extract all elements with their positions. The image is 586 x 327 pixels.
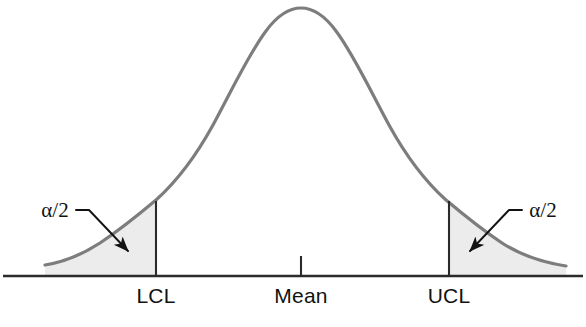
- normal-distribution-figure: α/2 α/2 LCL Mean UCL: [0, 0, 586, 327]
- alpha-left-label: α/2: [41, 198, 68, 222]
- alpha-right-label: α/2: [529, 198, 556, 222]
- ucl-axis-label: UCL: [428, 284, 471, 307]
- mean-axis-label: Mean: [274, 284, 327, 307]
- distribution-chart-canvas: α/2 α/2 LCL Mean UCL: [0, 0, 586, 327]
- lcl-axis-label: LCL: [136, 284, 175, 307]
- normal-distribution-curve: [45, 8, 566, 266]
